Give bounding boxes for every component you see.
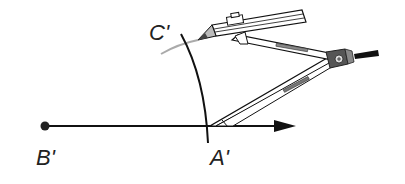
pencil [198, 10, 306, 40]
compass-hinge [326, 49, 379, 68]
compass-construction-figure [0, 0, 405, 184]
label-c-prime: C' [149, 22, 169, 44]
compass-pencil-leg [232, 32, 334, 60]
label-b-prime: B' [36, 147, 55, 169]
ray-arrowhead [274, 120, 296, 132]
diagram-canvas: C' B' A' [0, 0, 405, 184]
label-a-prime: A' [210, 147, 229, 169]
compass-needle-leg [210, 54, 340, 127]
point-b-prime [41, 122, 50, 131]
